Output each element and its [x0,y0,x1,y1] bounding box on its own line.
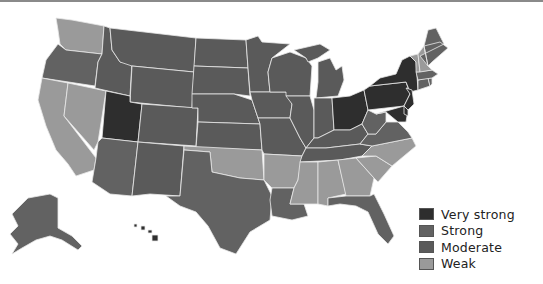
state-ND [194,38,248,68]
state-AZ [92,138,138,196]
caption [0,277,543,284]
legend-swatch [419,208,434,220]
legend-label: Very strong [441,207,515,222]
legend-swatch [419,225,434,237]
state-AK [10,194,82,254]
state-WY [130,66,194,108]
legend-item-moderate: Moderate [419,239,515,256]
state-NE [192,94,260,124]
state-FL [328,194,394,244]
state-NM [132,142,184,196]
legend-item-strong: Strong [419,223,515,240]
state-ME [420,28,448,66]
legend-label: Moderate [441,240,502,255]
legend-item-weak: Weak [419,256,515,273]
legend-item-very-strong: Very strong [419,206,515,223]
legend-label: Weak [441,256,476,271]
legend-swatch [419,258,434,270]
state-WI [268,52,312,96]
legend-swatch [419,241,434,253]
legend: Very strong Strong Moderate Weak [419,206,515,272]
legend-label: Strong [441,223,483,238]
state-SD [192,66,250,96]
state-CO [138,104,198,146]
state-KS [196,122,262,150]
state-HI [134,224,158,241]
